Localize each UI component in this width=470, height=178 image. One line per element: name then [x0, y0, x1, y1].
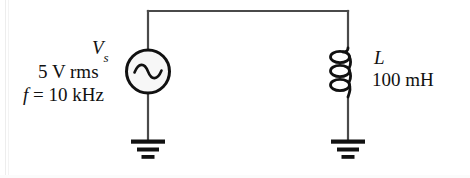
inductor-symbol-label: L [374, 48, 385, 67]
ground-bar-wide [331, 140, 365, 144]
circuit-diagram: Vs 5 V rms f = 10 kHz L 100 mH [0, 0, 470, 178]
ground-bar-medium [137, 148, 159, 152]
coil-loop [331, 65, 350, 76]
ground-bar-medium [337, 148, 359, 152]
ground-bar-narrow [342, 155, 355, 159]
inductor-symbol [331, 48, 351, 97]
ground-symbol-right [331, 140, 365, 159]
frequency-equals: = [28, 84, 48, 105]
coil-strand [349, 56, 350, 68]
source-symbol-label: Vs [92, 38, 109, 61]
wire-network [148, 11, 348, 141]
inductor-value-label: 100 mH [372, 70, 434, 89]
coil-loop [331, 51, 350, 62]
source-amplitude-label: 5 V rms [38, 62, 99, 81]
source-frequency-label: f = 10 kHz [23, 85, 104, 104]
ground-bar-narrow [142, 155, 155, 159]
coil-strand [349, 70, 350, 82]
ground-bar-wide [131, 140, 165, 144]
ac-voltage-source-symbol [127, 50, 170, 93]
coil-loop [331, 79, 350, 90]
source-symbol-subscript: s [104, 50, 109, 65]
ground-symbol-left [131, 140, 165, 159]
source-symbol-letter: V [92, 37, 104, 58]
frequency-value: 10 kHz [49, 84, 104, 105]
